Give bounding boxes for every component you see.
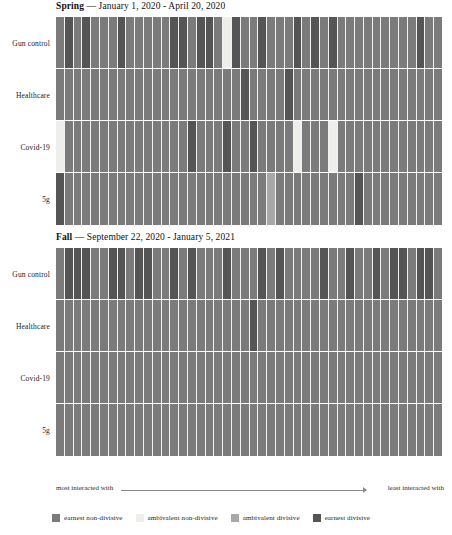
heatmap-cell[interactable]	[126, 404, 135, 456]
heatmap-cell[interactable]	[250, 404, 259, 456]
heatmap-cell[interactable]	[311, 69, 320, 120]
heatmap-cell[interactable]	[329, 17, 338, 68]
heatmap-cell[interactable]	[100, 300, 109, 351]
heatmap-cell[interactable]	[285, 17, 294, 68]
heatmap-cell[interactable]	[232, 121, 241, 172]
heatmap-cell[interactable]	[91, 404, 100, 456]
heatmap-cell[interactable]	[408, 69, 417, 120]
heatmap-cell[interactable]	[144, 300, 153, 351]
heatmap-cell[interactable]	[223, 248, 232, 299]
heatmap-cell[interactable]	[329, 248, 338, 299]
heatmap-cell[interactable]	[355, 69, 364, 120]
heatmap-cell[interactable]	[311, 352, 320, 403]
heatmap-cell[interactable]	[267, 300, 276, 351]
heatmap-cell[interactable]	[258, 300, 267, 351]
heatmap-cell[interactable]	[179, 173, 188, 225]
heatmap-cell[interactable]	[65, 173, 74, 225]
heatmap-cell[interactable]	[109, 17, 118, 68]
heatmap-cell[interactable]	[144, 173, 153, 225]
heatmap-cell[interactable]	[320, 352, 329, 403]
heatmap-cell[interactable]	[390, 248, 399, 299]
heatmap-cell[interactable]	[276, 300, 285, 351]
heatmap-cell[interactable]	[223, 173, 232, 225]
heatmap-cell[interactable]	[232, 248, 241, 299]
heatmap-cell[interactable]	[74, 17, 83, 68]
heatmap-cell[interactable]	[320, 17, 329, 68]
heatmap-cell[interactable]	[223, 121, 232, 172]
heatmap-cell[interactable]	[135, 121, 144, 172]
heatmap-cell[interactable]	[197, 121, 206, 172]
heatmap-cell[interactable]	[364, 173, 373, 225]
heatmap-cell[interactable]	[329, 121, 338, 172]
heatmap-cell[interactable]	[311, 248, 320, 299]
heatmap-cell[interactable]	[285, 300, 294, 351]
heatmap-cell[interactable]	[162, 248, 171, 299]
heatmap-cell[interactable]	[126, 352, 135, 403]
heatmap-cell[interactable]	[408, 404, 417, 456]
heatmap-cell[interactable]	[197, 173, 206, 225]
heatmap-cell[interactable]	[144, 17, 153, 68]
heatmap-cell[interactable]	[320, 121, 329, 172]
heatmap-cell[interactable]	[258, 352, 267, 403]
heatmap-cell[interactable]	[214, 173, 223, 225]
heatmap-cell[interactable]	[364, 300, 373, 351]
heatmap-cell[interactable]	[74, 352, 83, 403]
heatmap-cell[interactable]	[425, 300, 434, 351]
heatmap-cell[interactable]	[241, 69, 250, 120]
heatmap-cell[interactable]	[188, 173, 197, 225]
heatmap-cell[interactable]	[91, 173, 100, 225]
heatmap-cell[interactable]	[188, 248, 197, 299]
heatmap-cell[interactable]	[56, 69, 65, 120]
heatmap-cell[interactable]	[100, 173, 109, 225]
heatmap-cell[interactable]	[417, 69, 426, 120]
heatmap-cell[interactable]	[162, 17, 171, 68]
heatmap-cell[interactable]	[223, 69, 232, 120]
heatmap-cell[interactable]	[302, 248, 311, 299]
heatmap-cell[interactable]	[258, 173, 267, 225]
heatmap-cell[interactable]	[338, 352, 347, 403]
heatmap-cell[interactable]	[346, 121, 355, 172]
heatmap-cell[interactable]	[381, 248, 390, 299]
heatmap-cell[interactable]	[425, 248, 434, 299]
heatmap-cell[interactable]	[223, 404, 232, 456]
heatmap-cell[interactable]	[276, 404, 285, 456]
heatmap-cell[interactable]	[346, 404, 355, 456]
heatmap-cell[interactable]	[338, 248, 347, 299]
heatmap-cell[interactable]	[144, 404, 153, 456]
heatmap-cell[interactable]	[223, 352, 232, 403]
heatmap-cell[interactable]	[285, 404, 294, 456]
heatmap-cell[interactable]	[355, 248, 364, 299]
heatmap-cell[interactable]	[232, 173, 241, 225]
legend-item[interactable]: earnest divisive	[313, 514, 370, 522]
heatmap-cell[interactable]	[91, 69, 100, 120]
heatmap-cell[interactable]	[250, 17, 259, 68]
heatmap-cell[interactable]	[153, 121, 162, 172]
heatmap-cell[interactable]	[408, 121, 417, 172]
heatmap-cell[interactable]	[153, 173, 162, 225]
heatmap-cell[interactable]	[355, 173, 364, 225]
heatmap-cell[interactable]	[294, 404, 303, 456]
heatmap-cell[interactable]	[320, 404, 329, 456]
heatmap-cell[interactable]	[100, 248, 109, 299]
heatmap-cell[interactable]	[56, 173, 65, 225]
heatmap-cell[interactable]	[65, 248, 74, 299]
heatmap-cell[interactable]	[320, 69, 329, 120]
heatmap-cell[interactable]	[285, 173, 294, 225]
heatmap-cell[interactable]	[100, 17, 109, 68]
heatmap-cell[interactable]	[373, 352, 382, 403]
heatmap-cell[interactable]	[170, 173, 179, 225]
heatmap-cell[interactable]	[399, 17, 408, 68]
heatmap-cell[interactable]	[311, 17, 320, 68]
heatmap-cell[interactable]	[250, 173, 259, 225]
heatmap-cell[interactable]	[118, 248, 127, 299]
heatmap-cell[interactable]	[82, 248, 91, 299]
legend-item[interactable]: ambivalent divisive	[231, 514, 300, 522]
heatmap-cell[interactable]	[206, 69, 215, 120]
heatmap-cell[interactable]	[162, 121, 171, 172]
heatmap-cell[interactable]	[408, 300, 417, 351]
heatmap-cell[interactable]	[100, 404, 109, 456]
heatmap-cell[interactable]	[162, 300, 171, 351]
heatmap-cell[interactable]	[346, 352, 355, 403]
heatmap-cell[interactable]	[408, 173, 417, 225]
heatmap-cell[interactable]	[399, 69, 408, 120]
